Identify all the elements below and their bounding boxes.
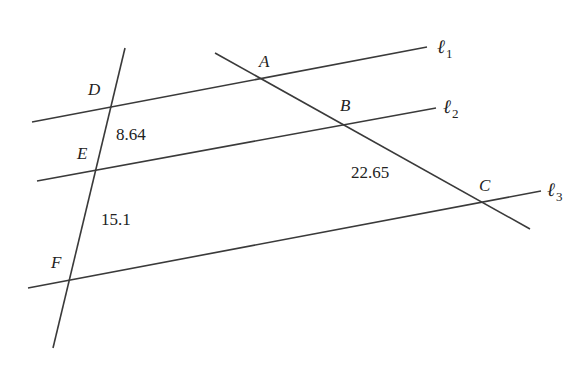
point-c-label: C: [479, 176, 491, 195]
point-d-label: D: [87, 80, 101, 99]
point-e-label: E: [76, 144, 88, 163]
svg-text:ℓ: ℓ: [547, 179, 555, 200]
svg-text:ℓ: ℓ: [437, 36, 445, 57]
point-a-label: A: [258, 52, 270, 71]
line-l3: [28, 191, 541, 288]
segment-ef-length: 15.1: [101, 210, 131, 229]
label-l2: ℓ 2: [443, 96, 459, 121]
segment-de-length: 8.64: [116, 125, 146, 144]
svg-text:ℓ: ℓ: [443, 96, 451, 117]
point-b-label: B: [340, 96, 351, 115]
diagram-canvas: ℓ 1 ℓ 2 ℓ 3 A B C D E F 8.64 15.1 22.65: [0, 0, 588, 370]
segment-bc-length: 22.65: [351, 163, 389, 182]
transversal-abc: [215, 53, 530, 229]
svg-text:1: 1: [446, 46, 453, 61]
svg-text:2: 2: [452, 106, 459, 121]
svg-text:3: 3: [556, 189, 563, 204]
label-l1: ℓ 1: [437, 36, 453, 61]
label-l3: ℓ 3: [547, 179, 563, 204]
point-f-label: F: [50, 253, 62, 272]
